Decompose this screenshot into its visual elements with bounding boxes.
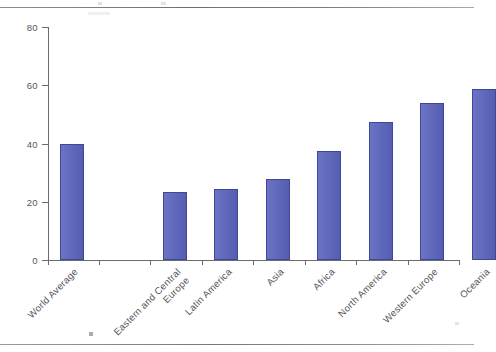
scan-speckle (98, 2, 102, 5)
x-tick-label-world-average: World Average (0, 266, 80, 352)
y-tick-label-20: 20 (4, 197, 38, 208)
x-axis-line (48, 260, 460, 261)
y-tick-label-0: 0 (4, 255, 38, 266)
bar-africa[interactable] (317, 151, 341, 260)
x-tick (202, 260, 203, 265)
scan-speckle (161, 2, 166, 5)
y-tick-60 (42, 85, 48, 86)
bar-western-europe[interactable] (420, 103, 444, 260)
y-tick-label-80: 80 (4, 22, 38, 33)
y-tick-20 (42, 202, 48, 203)
x-tick (253, 260, 254, 265)
y-tick-40 (42, 144, 48, 145)
x-tick (48, 260, 49, 265)
bar-eastern-central-europe[interactable] (163, 192, 187, 260)
x-tick (356, 260, 357, 265)
bar-oceania[interactable] (472, 89, 496, 260)
y-tick-label-40: 40 (4, 139, 38, 150)
bar-latin-america[interactable] (214, 189, 238, 260)
bar-asia[interactable] (266, 179, 290, 260)
x-tick-label-eastern-central-europe: Eastern and Central Europe (68, 266, 192, 352)
y-tick-label-60: 60 (4, 80, 38, 91)
x-tick (150, 260, 151, 265)
y-tick-80 (42, 27, 48, 28)
x-tick (305, 260, 306, 265)
x-tick (99, 260, 100, 265)
bar-chart: 80 60 40 20 0 World Average Eastern and … (0, 8, 474, 344)
bar-north-america[interactable] (369, 122, 393, 260)
y-axis-line (48, 27, 49, 261)
x-tick (459, 260, 460, 265)
x-tick (408, 260, 409, 265)
page-bottom-rule (0, 344, 474, 345)
bar-world-average[interactable] (60, 144, 84, 260)
